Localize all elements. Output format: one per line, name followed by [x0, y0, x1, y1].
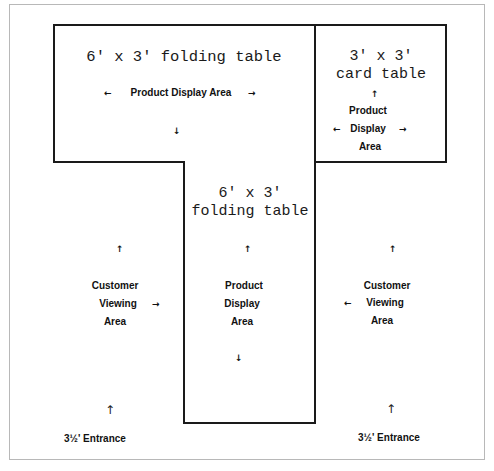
center-table-title-line1: 6' x 3'	[184, 185, 316, 203]
arrow-up-icon: ↑	[371, 89, 379, 99]
left-viewing-label-viewing: Viewing	[95, 298, 141, 309]
right-viewing-label-viewing: Viewing	[362, 297, 408, 308]
card-table-label-area: Area	[355, 141, 385, 152]
center-table-label-area: Area	[227, 316, 257, 327]
center-table-title-line2: folding table	[184, 203, 316, 221]
left-viewing-label-area: Area	[100, 316, 130, 327]
card-table-label-product: Product	[345, 105, 391, 116]
arrow-left-icon: ←	[104, 88, 112, 98]
card-table-label-display: Display	[345, 123, 391, 134]
top-table-label: Product Display Area	[120, 87, 242, 98]
center-table-label-display: Display	[218, 298, 266, 309]
arrow-left-icon: ←	[333, 124, 341, 134]
card-table-title-line1: 3' x 3'	[316, 48, 446, 66]
arrow-right-icon: →	[248, 88, 256, 98]
left-entrance-label: 3½' Entrance	[52, 433, 138, 444]
right-viewing-label-customer: Customer	[360, 280, 414, 291]
arrow-down-icon: ↓	[173, 126, 181, 136]
arrow-up-icon: ↑	[389, 244, 397, 254]
arrow-up-icon: ↑	[386, 403, 396, 415]
right-entrance-label: 3½' Entrance	[346, 432, 432, 443]
card-table-divider	[314, 24, 316, 163]
arrow-right-icon: →	[399, 124, 407, 134]
right-viewing-label-area: Area	[367, 315, 397, 326]
top-table-title: 6' x 3' folding table	[54, 48, 314, 66]
card-table-title-line2: card table	[316, 66, 446, 84]
arrow-down-icon: ↓	[235, 353, 243, 363]
arrow-up-icon: ↑	[244, 244, 252, 254]
arrow-up-icon: ↑	[105, 404, 115, 416]
left-viewing-label-customer: Customer	[88, 280, 142, 291]
center-table-label-product: Product	[220, 280, 268, 291]
arrow-right-icon: →	[152, 299, 160, 309]
arrow-left-icon: ←	[344, 298, 352, 308]
arrow-up-icon: ↑	[116, 244, 124, 254]
